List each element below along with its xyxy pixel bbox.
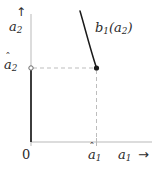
origin-label: 0 [22,148,30,161]
equilibrium-dot [94,65,99,70]
b1-curve-label: b1(a2) [95,21,133,36]
a1-hat-sub: 1 [96,153,102,163]
a2-axis-label-base: a [9,19,17,34]
a1-hat-tick-label: ˆa1 [88,148,101,163]
a1-axis-label: a1 [118,148,131,163]
b1-label-close-paren: ) [127,20,132,35]
axis-open-circle [29,66,33,70]
b1-label-arg-base: a [114,20,122,35]
right-arrow-icon: → [138,148,149,161]
a1-hat-accent: ˆ [89,143,94,154]
a1-axis-label-sub: 1 [126,153,132,163]
figure-canvas [0,0,162,169]
a2-axis-label-sub: 2 [17,25,23,35]
a2-axis-label: a2 [9,20,22,35]
up-arrow-icon: ↑ [16,6,26,18]
a2-hat-tick-label: ˆa2 [4,58,17,73]
a1-axis-label-base: a [118,147,126,162]
a2-hat-sub: 2 [12,63,18,73]
a2-hat-accent: ˆ [5,53,10,64]
best-response-figure: ↑ a2 ˆa2 0 ˆa1 a1 → b1(a2) [0,0,162,169]
